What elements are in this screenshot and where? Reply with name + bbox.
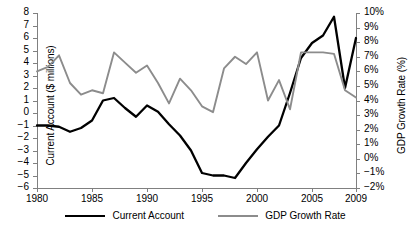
x-tick-label: 2009 <box>336 193 376 204</box>
left-tick-label: 5 <box>23 44 29 55</box>
left-tick-label: 8 <box>23 6 29 17</box>
right-tick-label: 1% <box>364 137 378 148</box>
right-tick <box>356 115 360 116</box>
legend-swatch <box>218 215 258 217</box>
right-tick <box>356 159 360 160</box>
right-tick <box>356 101 360 102</box>
x-tick <box>37 188 38 192</box>
x-tick <box>147 188 148 192</box>
left-tick-label: −3 <box>18 144 29 155</box>
right-tick <box>356 130 360 131</box>
left-tick-label: 0 <box>23 106 29 117</box>
series-line-gdp-growth-rate <box>37 52 356 112</box>
right-tick-label: 5% <box>364 79 378 90</box>
x-axis-line <box>37 188 357 189</box>
right-tick-label: 9% <box>364 21 378 32</box>
right-tick-label: 3% <box>364 108 378 119</box>
left-tick-label: −1 <box>18 119 29 130</box>
x-tick-label: 1980 <box>17 193 57 204</box>
left-tick-label: −5 <box>18 169 29 180</box>
left-tick-label: 1 <box>23 94 29 105</box>
left-tick-label: 3 <box>23 69 29 80</box>
x-tick <box>202 188 203 192</box>
right-tick-label: 6% <box>364 64 378 75</box>
right-tick-label: −2% <box>364 181 384 192</box>
x-tick-label: 1995 <box>182 193 222 204</box>
x-tick-label: 1990 <box>127 193 167 204</box>
plot-area: 876543210−1−2−3−4−5−6 10%9%8%7%6%5%4%3%2… <box>37 13 356 188</box>
right-tick-label: 0% <box>364 152 378 163</box>
x-tick <box>356 188 357 192</box>
legend-swatch <box>65 215 105 217</box>
right-tick <box>356 86 360 87</box>
left-tick-label: −2 <box>18 131 29 142</box>
right-tick-label: 7% <box>364 50 378 61</box>
right-tick <box>356 28 360 29</box>
legend-label: Current Account <box>112 210 184 221</box>
right-tick-label: 8% <box>364 35 378 46</box>
x-tick <box>257 188 258 192</box>
x-tick-label: 2000 <box>237 193 277 204</box>
right-axis-title: GDP Growth Rate (%) <box>396 16 407 196</box>
right-tick-label: 4% <box>364 94 378 105</box>
x-tick-label: 1985 <box>72 193 112 204</box>
right-tick <box>356 144 360 145</box>
x-tick <box>312 188 313 192</box>
right-tick <box>356 42 360 43</box>
right-tick-label: −1% <box>364 166 384 177</box>
legend-item-gdp-growth-rate[interactable]: GDP Growth Rate <box>218 210 345 221</box>
left-tick-label: 7 <box>23 19 29 30</box>
left-tick-label: −6 <box>18 181 29 192</box>
right-tick <box>356 173 360 174</box>
dual-axis-line-chart: Current Account ($ millions) GDP Growth … <box>0 0 411 229</box>
right-tick-label: 2% <box>364 123 378 134</box>
x-tick <box>92 188 93 192</box>
left-tick-label: 6 <box>23 31 29 42</box>
legend-item-current-account[interactable]: Current Account <box>65 210 184 221</box>
right-tick <box>356 57 360 58</box>
left-tick-label: 4 <box>23 56 29 67</box>
legend-label: GDP Growth Rate <box>265 210 345 221</box>
right-tick <box>356 13 360 14</box>
left-tick-label: 2 <box>23 81 29 92</box>
x-tick-label: 2005 <box>292 193 332 204</box>
right-tick-label: 10% <box>364 6 384 17</box>
right-tick <box>356 71 360 72</box>
series-lines <box>37 13 356 188</box>
chart-legend: Current AccountGDP Growth Rate <box>0 210 411 221</box>
left-tick-label: −4 <box>18 156 29 167</box>
